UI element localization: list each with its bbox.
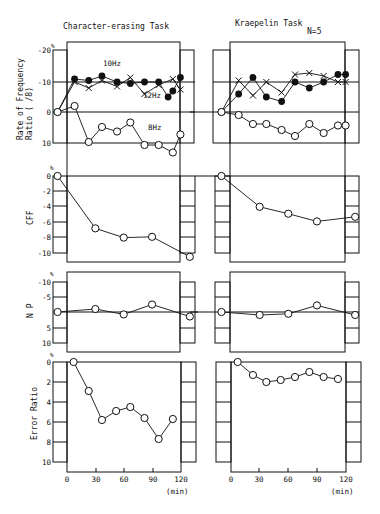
svg-text:90: 90	[312, 475, 322, 484]
open-circle-marker	[352, 213, 359, 220]
open-circle-marker	[155, 435, 162, 442]
open-circle-marker	[113, 407, 120, 414]
open-circle-marker	[148, 233, 155, 240]
svg-text:30: 30	[91, 475, 101, 484]
svg-text:10: 10	[42, 458, 52, 467]
open-circle-marker	[127, 119, 134, 126]
freq-ylabel-2: Ratio ( /8)	[25, 87, 34, 140]
open-circle-marker	[334, 375, 341, 382]
svg-text:4: 4	[46, 398, 51, 407]
open-circle-marker	[54, 308, 61, 315]
filled-circle-marker	[342, 71, 349, 78]
svg-text:60: 60	[119, 475, 129, 484]
svg-text:-4: -4	[42, 202, 52, 211]
series-np	[54, 301, 194, 320]
left-freq-yticks: -20 -10 0 10	[37, 46, 51, 148]
series-8hz	[54, 102, 184, 156]
series-8hz	[218, 108, 349, 139]
svg-text:8: 8	[46, 438, 51, 447]
open-circle-marker	[54, 108, 61, 115]
open-circle-marker	[169, 415, 176, 422]
svg-text:2: 2	[46, 378, 51, 387]
svg-text:0: 0	[65, 475, 70, 484]
open-circle-marker	[263, 120, 270, 127]
right-np-frame	[190, 272, 359, 352]
open-circle-marker	[306, 120, 313, 127]
open-circle-marker	[256, 311, 263, 318]
cff-ylabel: CFF	[26, 210, 35, 225]
svg-text:0: 0	[46, 108, 51, 117]
open-circle-marker	[235, 111, 242, 118]
open-circle-marker	[278, 126, 285, 133]
open-circle-marker	[285, 210, 292, 217]
open-circle-marker	[218, 308, 225, 315]
filled-circle-marker	[127, 80, 134, 87]
error-unit: %	[50, 351, 54, 358]
open-circle-marker	[334, 122, 341, 129]
filled-circle-marker	[250, 74, 257, 81]
open-circle-marker	[98, 123, 105, 130]
open-circle-marker	[320, 373, 327, 380]
svg-text:90: 90	[148, 475, 158, 484]
open-circle-marker	[70, 358, 77, 365]
series-cff	[54, 172, 194, 260]
svg-text:120: 120	[339, 475, 353, 484]
open-circle-marker	[313, 302, 320, 309]
svg-text:120: 120	[174, 475, 188, 484]
open-circle-marker	[155, 141, 162, 148]
np-unit: %	[50, 270, 54, 277]
open-circle-marker	[352, 311, 359, 318]
filled-circle-marker	[263, 94, 270, 101]
left-np-yticks: -10 -5 5 10	[37, 278, 51, 348]
svg-text:-2: -2	[42, 187, 51, 196]
filled-circle-marker	[335, 71, 342, 78]
open-circle-marker	[148, 301, 155, 308]
x-marker	[86, 85, 92, 91]
open-circle-marker	[249, 371, 256, 378]
label-8hz: 8Hz	[148, 123, 162, 132]
open-circle-marker	[218, 108, 225, 115]
open-circle-marker	[313, 218, 320, 225]
svg-text:-10: -10	[37, 78, 51, 87]
open-circle-marker	[186, 313, 193, 320]
x-marker	[236, 78, 242, 84]
open-circle-marker	[169, 149, 176, 156]
filled-circle-marker	[85, 77, 92, 84]
open-circle-marker	[141, 414, 148, 421]
svg-text:0: 0	[46, 172, 51, 181]
n-label: N=5	[307, 27, 322, 36]
open-circle-marker	[291, 373, 298, 380]
svg-text:-10: -10	[37, 249, 51, 258]
svg-text:-8: -8	[42, 233, 52, 242]
left-x-ticks	[96, 468, 153, 472]
filled-circle-marker	[165, 94, 172, 101]
svg-text:-6: -6	[42, 218, 52, 227]
open-circle-marker	[113, 128, 120, 135]
svg-text:6: 6	[46, 418, 51, 427]
cff-unit: %	[50, 164, 54, 171]
svg-text:-5: -5	[42, 293, 51, 302]
svg-text:10: 10	[42, 339, 52, 348]
open-circle-marker	[85, 387, 92, 394]
error-ylabel: Error Ratio	[30, 387, 39, 440]
x-marker	[250, 93, 256, 99]
open-circle-marker	[320, 129, 327, 136]
open-circle-marker	[234, 358, 241, 365]
svg-text:10: 10	[42, 139, 52, 148]
svg-text:30: 30	[254, 475, 264, 484]
filled-circle-marker	[292, 79, 299, 86]
series-cff	[218, 172, 359, 225]
series-10hz	[218, 71, 349, 115]
freq-unit: %	[51, 42, 55, 49]
open-circle-marker	[277, 376, 284, 383]
svg-text:-20: -20	[37, 46, 51, 55]
open-circle-marker	[249, 120, 256, 127]
open-circle-marker	[177, 131, 184, 138]
left-x-tick-labels: 0 30 60 90 120	[65, 475, 189, 484]
filled-circle-marker	[177, 74, 184, 81]
open-circle-marker	[218, 172, 225, 179]
freq-ylabel-1: Rate of Frequency	[16, 58, 25, 140]
right-x-unit: (min)	[331, 487, 354, 496]
filled-circle-marker	[320, 79, 327, 86]
svg-text:0: 0	[46, 358, 51, 367]
